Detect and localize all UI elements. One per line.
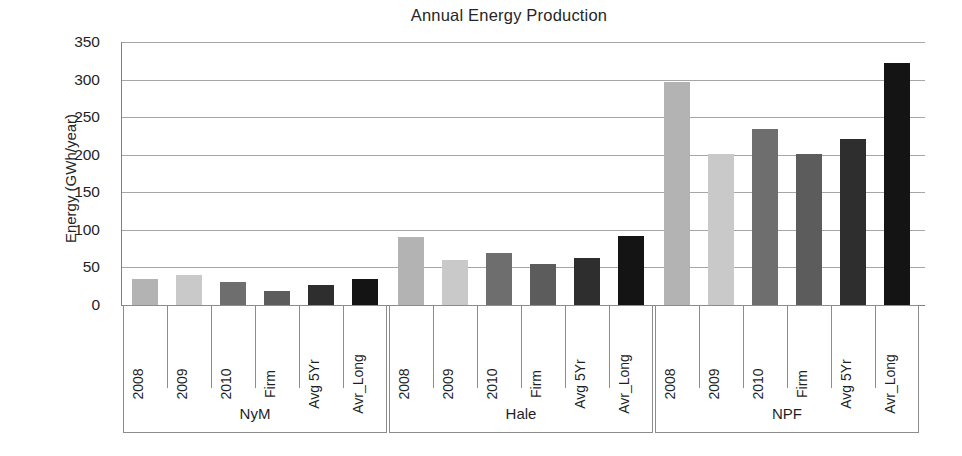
category-label: Avg 5Yr — [572, 359, 588, 409]
category-cell[interactable]: 2008 — [124, 306, 168, 388]
bar — [618, 236, 644, 305]
bar-group — [123, 42, 387, 305]
category-label: 2009 — [174, 368, 190, 399]
category-axis: 200820092010FirmAvg 5YrAvr_LongNyM200820… — [121, 305, 925, 445]
category-cell[interactable]: Firm — [256, 306, 300, 388]
category-cell[interactable]: Avg 5Yr — [300, 306, 344, 388]
category-cell[interactable]: 2010 — [744, 306, 788, 388]
category-label: Firm — [262, 370, 278, 398]
bar — [574, 258, 600, 305]
category-cell[interactable]: Avg 5Yr — [566, 306, 610, 388]
category-cell[interactable]: 2008 — [390, 306, 434, 388]
y-tick-label: 0 — [91, 296, 100, 314]
bar — [442, 260, 468, 305]
category-label: Firm — [528, 370, 544, 398]
bar — [398, 237, 424, 305]
bar — [708, 154, 734, 305]
category-label: 2008 — [130, 368, 146, 399]
bar-group — [389, 42, 653, 305]
bar — [664, 82, 690, 305]
category-label: 2008 — [396, 368, 412, 399]
y-tick-label: 200 — [74, 146, 100, 164]
bar — [264, 291, 290, 305]
group-label: Hale — [390, 405, 652, 422]
category-label: Avg 5Yr — [306, 359, 322, 409]
category-label: 2008 — [662, 368, 678, 399]
category-cell[interactable]: 2009 — [168, 306, 212, 388]
bar — [308, 285, 334, 305]
category-label: 2009 — [706, 368, 722, 399]
y-tick-label: 100 — [74, 221, 100, 239]
bar — [486, 253, 512, 305]
bar — [840, 139, 866, 305]
bar — [884, 63, 910, 305]
bar — [176, 275, 202, 305]
category-label: 2010 — [484, 368, 500, 399]
group-label: NPF — [656, 405, 918, 422]
category-cell[interactable]: Avr_Long — [344, 306, 388, 388]
category-label: 2009 — [440, 368, 456, 399]
category-cell[interactable]: 2008 — [656, 306, 700, 388]
category-cell[interactable]: Avr_Long — [876, 306, 920, 388]
y-tick-label: 300 — [74, 71, 100, 89]
y-tick-label: 350 — [74, 33, 100, 51]
group-label: NyM — [124, 405, 386, 422]
y-axis-ticks: 350300250200150100500 — [52, 0, 108, 456]
category-cell[interactable]: 2010 — [478, 306, 522, 388]
category-cell[interactable]: 2010 — [212, 306, 256, 388]
category-cell[interactable]: Firm — [788, 306, 832, 388]
bar-group — [655, 42, 919, 305]
bar — [530, 264, 556, 305]
chart-title: Annual Energy Production — [0, 6, 962, 25]
category-label: 2010 — [750, 368, 766, 399]
category-cell[interactable]: 2009 — [434, 306, 478, 388]
bar — [220, 282, 246, 305]
category-label: 2010 — [218, 368, 234, 399]
bar — [752, 129, 778, 305]
category-cell[interactable]: 2009 — [700, 306, 744, 388]
category-cell[interactable]: Avg 5Yr — [832, 306, 876, 388]
chart-container: Annual Energy Production Energy (GWh/yea… — [0, 0, 962, 456]
category-group-box: 200820092010FirmAvg 5YrAvr_LongNyM — [123, 305, 387, 433]
category-group-box: 200820092010FirmAvg 5YrAvr_LongHale — [389, 305, 653, 433]
bar — [132, 279, 158, 305]
bars-layer — [121, 42, 925, 305]
y-tick-label: 50 — [83, 258, 100, 276]
category-cell[interactable]: Firm — [522, 306, 566, 388]
bar — [352, 279, 378, 305]
category-label: Avg 5Yr — [838, 359, 854, 409]
bar — [796, 154, 822, 305]
y-tick-label: 150 — [74, 183, 100, 201]
plot-area — [121, 42, 925, 305]
category-group-box: 200820092010FirmAvg 5YrAvr_LongNPF — [655, 305, 919, 433]
category-label: Firm — [794, 370, 810, 398]
y-tick-label: 250 — [74, 108, 100, 126]
category-cell[interactable]: Avr_Long — [610, 306, 654, 388]
